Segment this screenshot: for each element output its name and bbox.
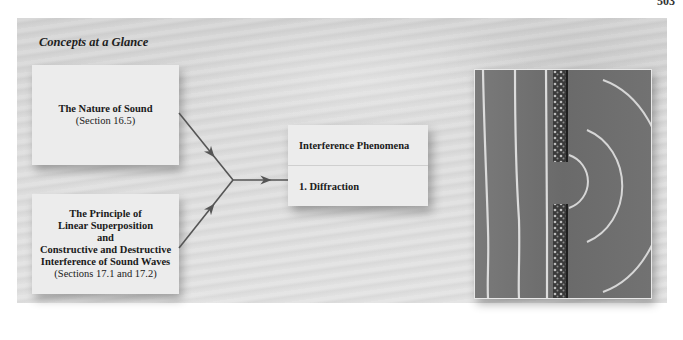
concept-reference: (Section 16.5) xyxy=(76,115,136,127)
concept-heading-line: Constructive and Destructive xyxy=(40,244,171,256)
concept-heading-line: Linear Superposition xyxy=(58,220,153,232)
interference-phenomena-box: Interference Phenomena 1. Diffraction xyxy=(288,125,428,206)
concept-reference: (Sections 17.1 and 17.2) xyxy=(54,268,156,280)
barrier-top xyxy=(553,70,567,162)
concept-heading-line: Interference of Sound Waves xyxy=(41,256,170,268)
panel-title: Concepts at a Glance xyxy=(39,35,148,50)
phenomena-item-diffraction: 1. Diffraction xyxy=(288,166,428,206)
concept-box-nature-of-sound: The Nature of Sound (Section 16.5) xyxy=(32,65,179,165)
page-number: 503 xyxy=(657,0,675,9)
wavefront-plane-3 xyxy=(546,70,547,298)
concept-box-linear-superposition: The Principle of Linear Superposition an… xyxy=(32,194,179,294)
concept-heading-line: and xyxy=(97,232,114,244)
concept-heading: The Nature of Sound xyxy=(58,103,152,115)
phenomena-title: Interference Phenomena xyxy=(288,125,428,166)
diffraction-photo xyxy=(474,69,652,299)
diffraction-illustration xyxy=(475,70,651,298)
barrier-bottom xyxy=(553,204,567,298)
concept-heading-line: The Principle of xyxy=(69,208,141,220)
